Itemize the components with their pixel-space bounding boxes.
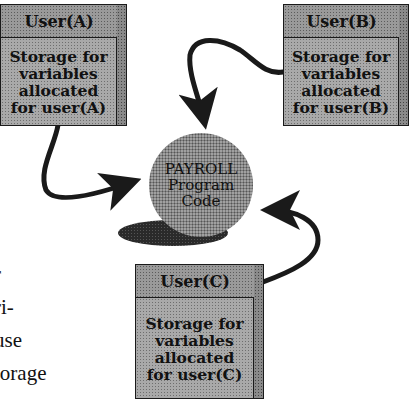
- user-a-storage: Storage for variables allocated for user…: [0, 38, 117, 126]
- user-a-storage-label: Storage for variables allocated for user…: [9, 48, 107, 116]
- text-line: use: [0, 324, 74, 357]
- arrow-user-c-to-program: [263, 210, 318, 282]
- user-a-header: User(A): [0, 4, 117, 38]
- arrow-user-b-to-program: [190, 40, 283, 120]
- box-depth-face: [117, 4, 127, 126]
- user-c-storage: Storage for variables allocated for user…: [135, 298, 254, 399]
- user-b-header: User(B): [283, 4, 399, 38]
- user-c-storage-label: Storage for variables allocated for user…: [145, 315, 243, 383]
- cropped-body-text: r ri- use torage: [0, 258, 74, 390]
- program-label: PAYROLL Program Code: [165, 161, 237, 209]
- arrow-user-a-to-program: [44, 125, 132, 198]
- text-line: torage: [0, 357, 74, 390]
- box-depth-face: [399, 4, 409, 126]
- user-b-box: User(B) Storage for variables allocated …: [283, 0, 409, 126]
- user-c-header: User(C): [135, 264, 254, 298]
- user-b-storage-label: Storage for variables allocated for user…: [292, 48, 390, 116]
- text-line: ri-: [0, 291, 74, 324]
- box-depth-face: [254, 264, 264, 399]
- payroll-program-code-node: PAYROLL Program Code: [149, 133, 253, 237]
- user-b-storage: Storage for variables allocated for user…: [283, 38, 399, 126]
- payroll-shared-code-diagram: r ri- use torage PAYROLL Program Code Us…: [0, 0, 418, 403]
- user-c-box: User(C) Storage for variables allocated …: [135, 260, 264, 399]
- user-a-box: User(A) Storage for variables allocated …: [0, 0, 127, 126]
- text-line: r: [0, 258, 74, 291]
